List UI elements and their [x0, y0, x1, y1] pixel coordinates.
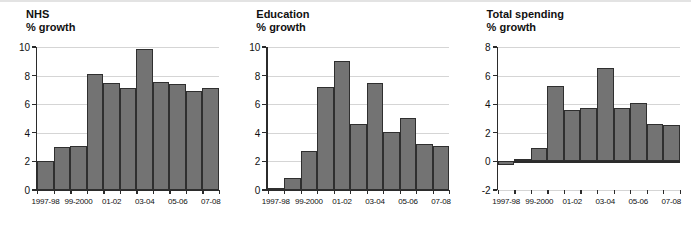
chart-title: NHS — [26, 8, 49, 21]
bar — [317, 87, 334, 190]
x-axis-tick — [219, 190, 220, 194]
gridline — [36, 190, 219, 191]
chart-panel-3: Total spending% growth-2024681997-9899-2… — [461, 0, 691, 226]
bar — [383, 132, 400, 190]
x-axis-label: 1997-98 — [492, 197, 520, 206]
bar — [169, 84, 186, 190]
x-axis-tick — [169, 190, 170, 194]
gridline — [266, 190, 449, 191]
y-axis-label: 2 — [255, 156, 261, 167]
y-axis-label: 8 — [24, 70, 30, 81]
bar — [54, 147, 71, 190]
x-axis-label: 99-2000 — [525, 197, 553, 206]
bar — [498, 161, 515, 164]
bar — [87, 74, 104, 190]
bar — [547, 86, 564, 162]
x-axis-tick — [630, 190, 631, 194]
y-axis-label: 4 — [24, 127, 30, 138]
x-axis-tick — [597, 190, 598, 194]
bar — [334, 61, 351, 190]
x-axis-tick — [367, 190, 368, 194]
bar — [614, 108, 631, 162]
x-axis-tick — [37, 190, 38, 194]
chart-subtitle: % growth — [256, 21, 306, 34]
y-axis-label: 0 — [255, 185, 261, 196]
bar — [597, 68, 614, 162]
bar — [630, 103, 647, 161]
bar — [37, 161, 54, 190]
y-axis-label: 8 — [255, 70, 261, 81]
x-axis-label: 99-2000 — [295, 197, 323, 206]
x-axis-label: 99-2000 — [65, 197, 93, 206]
bar — [367, 83, 384, 190]
x-axis-tick — [54, 190, 55, 194]
y-axis-label: 6 — [255, 99, 261, 110]
x-axis-tick — [514, 190, 515, 194]
x-axis-tick — [680, 190, 681, 194]
bar-series — [268, 47, 450, 190]
x-axis-tick — [400, 190, 401, 194]
x-axis-tick — [103, 190, 104, 194]
x-axis-label: 07-08 — [201, 197, 220, 206]
bar — [400, 118, 417, 190]
x-axis-label: 03-04 — [365, 197, 384, 206]
x-axis-label: 01-02 — [102, 197, 121, 206]
x-axis-tick — [647, 190, 648, 194]
bar-series — [498, 47, 680, 190]
x-axis-tick — [580, 190, 581, 194]
y-axis-label: 10 — [249, 42, 260, 53]
x-axis-label: 01-02 — [562, 197, 581, 206]
y-axis-label: 10 — [19, 42, 30, 53]
bar — [202, 88, 219, 190]
y-axis-label: -2 — [482, 185, 491, 196]
y-axis-label: 4 — [255, 127, 261, 138]
bar — [70, 146, 87, 190]
bar — [136, 49, 153, 190]
bar — [103, 83, 120, 190]
x-axis-tick — [268, 190, 269, 194]
plot-area: 02468101997-9899-200001-0203-0405-0607-0… — [266, 47, 449, 190]
x-axis-label: 1997-98 — [32, 197, 60, 206]
chart-panel-2: Education% growth02468101997-9899-200001… — [230, 0, 460, 226]
bar — [268, 188, 285, 190]
y-axis-label: 0 — [24, 185, 30, 196]
x-axis-tick — [120, 190, 121, 194]
x-axis-tick — [350, 190, 351, 194]
chart-panel-1: NHS% growth02468101997-9899-200001-0203-… — [0, 0, 230, 226]
chart-subtitle: % growth — [26, 21, 76, 34]
y-axis-label: 4 — [485, 99, 491, 110]
x-axis-tick — [202, 190, 203, 194]
x-axis-tick — [663, 190, 664, 194]
x-axis-tick — [70, 190, 71, 194]
x-axis-tick — [87, 190, 88, 194]
bar — [350, 124, 367, 190]
x-axis-tick — [317, 190, 318, 194]
x-axis-tick — [186, 190, 187, 194]
x-axis-tick — [614, 190, 615, 194]
bar-series — [37, 47, 219, 190]
x-axis-tick — [449, 190, 450, 194]
plot-area: -2024681997-9899-200001-0203-0405-0607-0… — [497, 47, 680, 190]
x-axis-label: 1997-98 — [262, 197, 290, 206]
bar — [514, 159, 531, 161]
chart-subtitle: % growth — [487, 21, 537, 34]
x-axis-tick — [334, 190, 335, 194]
x-axis-label: 07-08 — [431, 197, 450, 206]
x-axis-tick — [284, 190, 285, 194]
bar — [531, 148, 548, 162]
bar — [153, 82, 170, 190]
x-axis-label: 03-04 — [596, 197, 615, 206]
y-axis-label: 2 — [24, 156, 30, 167]
bar — [301, 151, 318, 190]
y-axis-label: 2 — [485, 127, 491, 138]
x-axis-tick — [433, 190, 434, 194]
x-axis-tick — [153, 190, 154, 194]
y-axis-label: 8 — [485, 42, 491, 53]
gridline — [497, 190, 680, 191]
x-axis-tick — [547, 190, 548, 194]
chart-panel-group: NHS% growth02468101997-9899-200001-0203-… — [0, 0, 691, 226]
x-axis-tick — [301, 190, 302, 194]
bar — [284, 178, 301, 190]
x-axis-label: 05-06 — [168, 197, 187, 206]
y-axis-label: 6 — [485, 70, 491, 81]
